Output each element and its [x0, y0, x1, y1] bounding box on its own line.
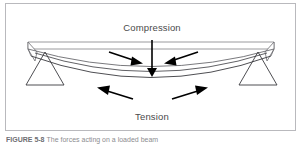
figure-frame: Compression Tension — [5, 3, 296, 131]
figure-caption-text: The forces acting on a loaded beam — [46, 136, 158, 143]
compression-arrow-left-head-icon — [131, 57, 144, 66]
figure-caption-id: FIGURE 5-8 — [6, 136, 45, 143]
tension-arrow-right-head-icon — [195, 86, 208, 96]
compression-arrows — [109, 52, 198, 66]
tension-arrows — [97, 86, 208, 100]
load-arrow-head-icon — [147, 68, 157, 77]
figure-container: Compression Tension FIGURE 5-8 The force… — [0, 0, 302, 144]
right-support-triangle — [239, 52, 277, 85]
figure-caption: FIGURE 5-8 The forces acting on a loaded… — [6, 136, 206, 144]
compression-arrow-right-head-icon — [164, 57, 177, 66]
compression-label: Compression — [123, 22, 181, 33]
tension-arrow-left-head-icon — [97, 86, 110, 96]
tension-label: Tension — [135, 111, 169, 122]
beam-top-face — [28, 42, 274, 49]
beam-bending-diagram: Compression Tension — [6, 4, 297, 132]
beam-curve-upper — [28, 49, 274, 67]
right-support — [239, 52, 277, 85]
